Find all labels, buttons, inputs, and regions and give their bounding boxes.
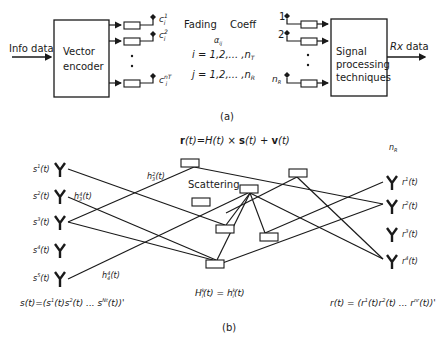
signal-processing-block xyxy=(331,19,387,96)
svg-text:r4(t): r4(t) xyxy=(402,255,418,266)
antenna-icon xyxy=(55,216,65,230)
rx-antenna-1: r1(t) xyxy=(387,176,418,190)
path-label-h32: h32(t) xyxy=(147,171,165,182)
ellipsis-dot xyxy=(307,64,309,66)
ellipsis-dot xyxy=(307,54,309,56)
svg-text:r2(t): r2(t) xyxy=(402,200,418,211)
channel-equation: r(t)=H(t) × s(t) + v(t) xyxy=(180,135,290,146)
antenna-icon xyxy=(387,255,397,269)
rx-antenna-4: r4(t) xyxy=(387,255,418,269)
nr-label: nR xyxy=(389,143,398,153)
scatterer-box xyxy=(240,185,258,193)
tx-antenna-4: s4(t) xyxy=(33,244,65,258)
svg-text:r3(t): r3(t) xyxy=(402,228,418,239)
antenna-icon xyxy=(55,163,65,177)
path-label-h44: h44(t) xyxy=(102,270,120,281)
scatterer-box xyxy=(192,198,210,206)
svg-text:1: 1 xyxy=(279,11,285,22)
antenna-icon xyxy=(55,244,65,258)
svg-text:s5(t): s5(t) xyxy=(33,272,50,283)
rx-data-label: Rx data xyxy=(390,41,429,52)
scatterer-box xyxy=(216,225,234,233)
antenna-node-icon xyxy=(150,31,156,37)
channel-element-equation: Hki(t) = hki(t) xyxy=(195,287,244,299)
scatterer-box xyxy=(260,233,278,241)
svg-text:s2(t): s2(t) xyxy=(33,190,50,201)
svg-text:s4(t): s4(t) xyxy=(33,244,50,255)
caption-a: (a) xyxy=(220,111,234,122)
rx-vector-formula: r(t) = (r1(t)r2(t) ... rnr(t))' xyxy=(330,297,436,308)
antenna-icon xyxy=(55,272,65,287)
antenna-node-icon xyxy=(284,72,290,78)
antenna-icon xyxy=(387,228,397,242)
j-range: j = 1,2,... ,nR xyxy=(190,69,255,81)
antenna-icon xyxy=(387,200,397,214)
svg-text:s1(t): s1(t) xyxy=(33,163,50,174)
caption-b: (b) xyxy=(222,322,236,333)
tx-output-2: c2i xyxy=(109,28,168,45)
i-range: i = 1,2,... ,nT xyxy=(192,49,256,61)
ellipsis-dot xyxy=(131,55,133,57)
tx-antenna-2: s2(t) xyxy=(33,190,65,204)
alpha-symbol: αij xyxy=(214,36,223,47)
scatterer-box xyxy=(181,159,199,167)
svg-text:c1i: c1i xyxy=(159,12,168,26)
processor-label-line1: Signal xyxy=(336,46,367,57)
tx-output-1: c1i xyxy=(109,12,168,29)
svg-text:r1(t): r1(t) xyxy=(402,176,418,187)
antenna-icon xyxy=(55,190,65,204)
rx-input-2: 2 xyxy=(278,29,328,45)
svg-text:c2i: c2i xyxy=(159,28,168,42)
rx-input-1: 1 xyxy=(279,11,328,28)
encoder-label-line2: encoder xyxy=(63,61,105,72)
scatterer-box xyxy=(289,169,307,177)
svg-text:cnTi: cnTi xyxy=(159,73,173,87)
scatterers xyxy=(181,159,307,268)
path-label-h34: h34(t) xyxy=(74,191,92,202)
antenna-node-icon xyxy=(284,30,290,36)
scatterer-box xyxy=(206,260,224,268)
antenna-icon xyxy=(387,176,397,190)
vector-encoder-block xyxy=(54,20,109,97)
tx-antenna-3: s3(t) xyxy=(33,216,65,230)
tx-vector-formula: s(t)=(s1(t)s2(t) ... sNt(t))' xyxy=(20,297,124,308)
rx-antenna-2: r2(t) xyxy=(387,200,418,214)
tx-antenna-1: s1(t) xyxy=(33,163,65,177)
info-data-label: Info data xyxy=(9,43,54,54)
svg-text:s3(t): s3(t) xyxy=(33,216,50,227)
encoder-label-line1: Vector xyxy=(63,46,96,57)
tx-antenna-5: s5(t) xyxy=(33,272,65,287)
coeff-label: Coeff xyxy=(230,19,257,30)
scattering-label: Scattering xyxy=(188,179,240,190)
part-a-block-diagram: Info data Vector encoder c1i c2i cnTi xyxy=(9,11,429,122)
mimo-diagram: Info data Vector encoder c1i c2i cnTi xyxy=(0,0,442,345)
svg-text:2: 2 xyxy=(278,29,284,40)
antenna-node-icon xyxy=(150,73,156,79)
ellipsis-dot xyxy=(131,65,133,67)
antenna-node-icon xyxy=(150,14,156,20)
rx-antenna-3: r3(t) xyxy=(387,228,418,242)
processor-label-line2: processing xyxy=(336,59,390,70)
tx-output-nt: cnTi xyxy=(109,73,173,87)
part-b-channel-diagram: r(t)=H(t) × s(t) + v(t) nR xyxy=(20,135,436,333)
fading-label: Fading xyxy=(184,19,217,30)
processor-label-line3: techniques xyxy=(336,72,391,83)
rx-input-nr: nR xyxy=(272,72,328,87)
svg-text:nR: nR xyxy=(272,74,281,85)
